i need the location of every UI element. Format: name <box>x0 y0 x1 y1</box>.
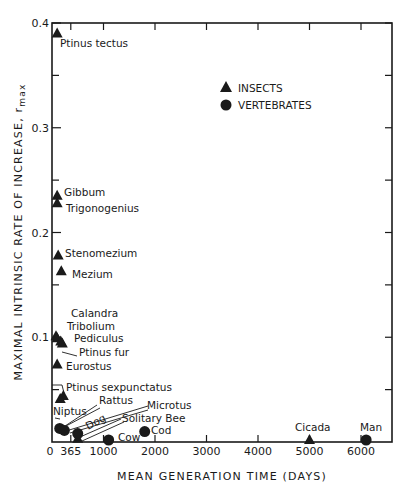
point-label: Cow <box>118 431 141 443</box>
point-label: Niptus <box>53 405 87 417</box>
legend-label-vertebrates: VERTEBRATES <box>238 99 312 111</box>
point-label: Microtus <box>147 399 192 411</box>
legend-label-insects: INSECTS <box>238 82 283 94</box>
insect-triangle-marker <box>304 434 315 444</box>
point-label: Cod <box>151 424 171 436</box>
insect-triangle-marker <box>56 265 67 275</box>
y-tick-label: 0.2 <box>32 227 50 240</box>
vertebrate-circle-marker <box>59 425 70 436</box>
x-tick-label: 365 <box>60 445 81 458</box>
point-label: Tribolium <box>66 320 115 332</box>
plot-frame <box>52 23 392 442</box>
x-tick-label: 2000 <box>141 445 169 458</box>
point-label: Ptinus sexpunctatus <box>66 381 172 393</box>
point-label: Pediculus <box>74 332 123 344</box>
insect-triangle-marker <box>52 358 63 368</box>
vertebrate-circle-marker <box>361 435 372 446</box>
point-label: Man <box>360 421 382 433</box>
y-tick-label: 0.4 <box>32 17 50 30</box>
insect-triangle-marker <box>53 250 64 260</box>
vertebrate-circle-marker <box>103 435 114 446</box>
x-tick-label: 1000 <box>90 445 118 458</box>
point-label: Mezium <box>72 268 113 280</box>
point-labels: Ptinus tectusGibbumTrigonogeniusStenomez… <box>53 37 382 443</box>
point-label: Stenomezium <box>65 247 137 259</box>
y-axis-title: MAXIMAL INTRINSIC RATE OF INCREASE, rmax <box>12 83 27 380</box>
legend-triangle-icon <box>220 81 232 92</box>
leader-line <box>62 352 77 356</box>
insect-triangle-marker <box>52 27 63 37</box>
vertebrate-circle-marker <box>139 426 150 437</box>
point-label: Ptinus fur <box>79 346 130 358</box>
legend: INSECTS VERTEBRATES <box>220 81 312 111</box>
y-tick-label: 0.3 <box>32 122 50 135</box>
x-tick-label: 6000 <box>347 445 375 458</box>
x-axis-title: MEAN GENERATION TIME (DAYS) <box>117 470 327 483</box>
vertebrate-circle-marker <box>72 428 83 439</box>
point-label: Cicada <box>295 421 331 433</box>
y-axis-title-group: MAXIMAL INTRINSIC RATE OF INCREASE, rmax <box>12 83 27 380</box>
point-label: Solitary Bee <box>122 412 185 424</box>
x-tick-label: 5000 <box>296 445 324 458</box>
y-axis-title-subscript: max <box>17 83 27 106</box>
point-label: Eurostus <box>66 360 112 372</box>
y-tick-label: 0.1 <box>32 331 50 344</box>
x-tick-label: 4000 <box>244 445 272 458</box>
scatter-chart: 03651000200030004000500060000.10.20.30.4… <box>0 0 405 486</box>
point-label: Calandra <box>71 307 118 319</box>
plot-border <box>52 23 392 442</box>
axis-ticks <box>52 23 392 442</box>
leader-line <box>55 418 60 419</box>
x-tick-label: 3000 <box>193 445 221 458</box>
point-label: Trigonogenius <box>65 202 139 214</box>
point-label: Dog <box>83 411 107 432</box>
point-label: Rattus <box>99 394 133 406</box>
point-label: Ptinus tectus <box>60 37 128 49</box>
x-tick-label: 0 <box>47 445 54 458</box>
point-label: Gibbum <box>64 186 105 198</box>
legend-circle-icon <box>221 100 232 111</box>
